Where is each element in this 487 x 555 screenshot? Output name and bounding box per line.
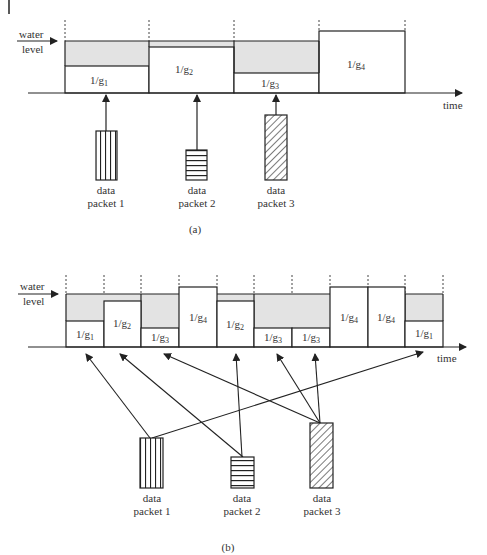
packet-label-2-line2: packet 2: [224, 505, 261, 517]
water-level-label-2: level: [22, 43, 43, 55]
data-packet-1: [96, 131, 117, 180]
packet-label-3-line2: packet 3: [304, 505, 341, 517]
slot-box-4: [319, 31, 405, 93]
data-packet-3: [310, 423, 333, 488]
arrow-p3-slot6: [277, 354, 320, 423]
packet-label-1-line2: packet 1: [88, 197, 125, 209]
arrow-p1-slot1: [86, 354, 150, 438]
water-filling-figure: 1/g1 1/g2 1/g3 1/g4 time water level dat…: [0, 0, 487, 555]
diagram-a: 1/g1 1/g2 1/g3 1/g4 time water level dat…: [17, 20, 463, 236]
packet-label-3-line1: data: [313, 492, 331, 504]
arrow-p2-slot2: [120, 354, 243, 457]
packet-label-1-line1: data: [97, 184, 115, 196]
arrow-p1-slot10: [152, 352, 423, 438]
water-fill-1: [66, 294, 104, 321]
arrow-p3-slot7: [315, 354, 320, 423]
diagram-b: 1/g1 1/g2 1/g3 1/g4 1/g2 1/g3 1/g3 1/g4 …: [18, 275, 466, 554]
water-fill-7: [292, 294, 330, 328]
data-packet-2: [231, 457, 254, 488]
water-level-label-1: water: [19, 28, 44, 40]
data-packet-2: [186, 150, 207, 180]
data-packet-3: [265, 115, 287, 180]
water-level-label-2: level: [23, 295, 44, 307]
water-fill-5: [217, 294, 254, 301]
time-label: time: [443, 99, 463, 111]
arrow-p2-slot5: [236, 354, 242, 457]
water-fill-6: [254, 294, 292, 328]
arrow-p3-slot3: [164, 354, 320, 423]
caption-b: (b): [222, 541, 235, 554]
water-fill-1: [65, 41, 149, 66]
water-fill-2: [149, 41, 234, 47]
packet-label-2-line1: data: [188, 184, 206, 196]
caption-a: (a): [189, 223, 202, 236]
data-packet-1: [140, 438, 163, 488]
water-fill-3: [234, 41, 319, 73]
packet-label-3-line1: data: [267, 184, 285, 196]
packet-label-2-line1: data: [233, 492, 251, 504]
time-label: time: [437, 352, 457, 364]
packet-label-3-line2: packet 3: [258, 197, 295, 209]
packet-label-1-line1: data: [143, 492, 161, 504]
water-level-label-1: water: [20, 280, 45, 292]
water-fill-3: [141, 294, 179, 328]
water-fill-10: [405, 294, 443, 321]
water-fill-2: [104, 294, 141, 301]
packet-label-1-line2: packet 1: [134, 505, 171, 517]
packet-label-2-line2: packet 2: [179, 197, 216, 209]
